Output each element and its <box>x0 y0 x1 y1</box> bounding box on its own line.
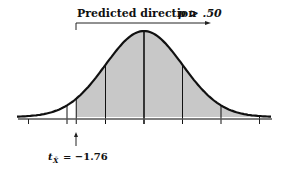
t-arrow-head-icon <box>74 132 78 137</box>
p-label: p > .50 <box>178 7 222 20</box>
arrow-head-icon <box>205 21 211 25</box>
t-value: = −1.76 <box>63 151 108 162</box>
t-subscript: X̄ <box>52 156 59 165</box>
normal-curve-diagram: Predicted direction p > .50 t X̄ = −1.76 <box>0 0 284 170</box>
